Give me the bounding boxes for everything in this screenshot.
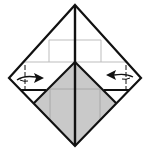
origami-diagram <box>0 0 148 159</box>
fold-right-flap-arrow-icon <box>106 70 133 80</box>
fold-left-flap-arrow-icon <box>17 73 44 83</box>
